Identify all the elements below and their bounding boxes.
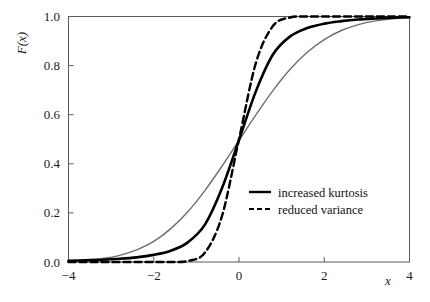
x-tick-label: 4 [406, 268, 413, 283]
x-tick-label: 2 [321, 268, 328, 283]
y-axis-title: F(x) [14, 32, 29, 55]
y-tick-label: 0.6 [44, 107, 61, 122]
y-tick-label: 0.0 [44, 255, 60, 270]
x-tick-label: −2 [147, 268, 161, 283]
chart-figure: −4−2024 0.00.20.40.60.81.0 x F(x) increa… [0, 0, 430, 302]
legend-label: increased kurtosis [278, 186, 368, 200]
y-tick-label: 1.0 [44, 9, 60, 24]
cdf-line-chart: −4−2024 0.00.20.40.60.81.0 x F(x) increa… [0, 0, 430, 302]
x-axis-title: x [384, 273, 391, 288]
chart-background [0, 0, 430, 302]
legend-label: reduced variance [278, 203, 363, 217]
y-tick-label: 0.4 [44, 156, 61, 171]
x-tick-label: 0 [236, 268, 243, 283]
x-tick-label: −4 [62, 268, 76, 283]
y-tick-label: 0.2 [44, 205, 60, 220]
y-tick-label: 0.8 [44, 58, 60, 73]
